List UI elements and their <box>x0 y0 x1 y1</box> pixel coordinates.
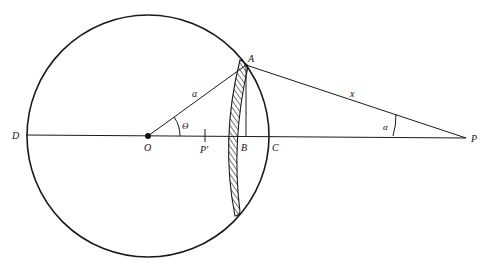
alpha-angle-arc <box>393 114 396 136</box>
label-C: C <box>272 142 279 153</box>
label-P-prime: P′ <box>199 144 209 155</box>
label-theta: Θ <box>182 121 189 131</box>
label-B: B <box>241 142 247 153</box>
label-a: a <box>192 88 197 99</box>
label-A: A <box>247 53 255 64</box>
label-D: D <box>11 130 20 141</box>
label-x: x <box>349 88 355 99</box>
theta-angle-arc <box>174 117 180 136</box>
center-point-O <box>145 133 151 139</box>
hatched-shell <box>229 60 248 216</box>
diagram-canvas: D O P′ B C A P a x Θ α <box>0 0 491 266</box>
label-alpha: α <box>383 122 388 132</box>
label-P: P <box>470 133 477 144</box>
line-x-AP <box>246 65 466 138</box>
label-O: O <box>144 142 151 153</box>
